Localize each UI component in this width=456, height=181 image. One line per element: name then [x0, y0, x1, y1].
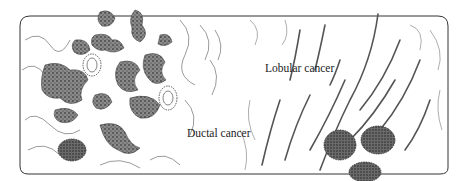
breast-cancer-illustration: Ductal cancer Lobular cancer: [0, 0, 456, 181]
tissue-drawing: [0, 0, 456, 181]
lobular-lobules: [324, 126, 395, 181]
ductal-cancer-label: Ductal cancer: [187, 127, 251, 139]
lobular-cancer-label: Lobular cancer: [265, 62, 334, 74]
ductal-tumor-masses: [41, 10, 172, 154]
